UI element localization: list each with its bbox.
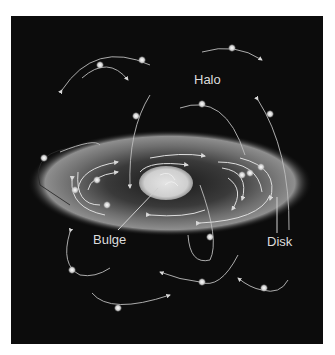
bulge	[139, 166, 193, 200]
bulge-label: Bulge	[93, 232, 126, 247]
disk-label: Disk	[267, 234, 292, 249]
halo-label: Halo	[194, 72, 221, 87]
galaxy-diagram	[0, 0, 335, 355]
